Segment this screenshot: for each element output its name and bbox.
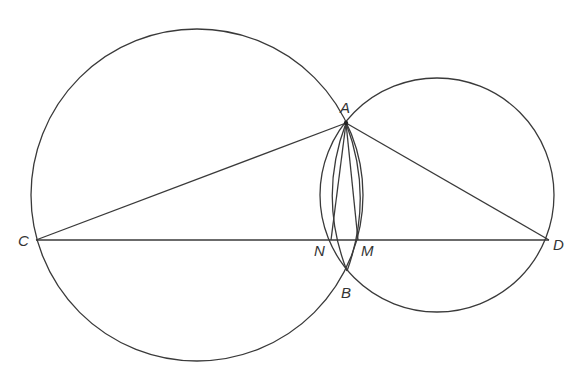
left-circle: [31, 29, 363, 361]
geometry-figure: A B C D N M: [0, 0, 576, 386]
label-M: M: [361, 242, 374, 259]
label-B: B: [341, 284, 351, 301]
arc-ANB: [332, 123, 347, 271]
label-N: N: [314, 242, 325, 259]
label-C: C: [18, 232, 29, 249]
segment-CA: [36, 123, 346, 240]
point-A-dot: [344, 121, 348, 125]
label-D: D: [553, 236, 564, 253]
segment-AD: [346, 123, 549, 240]
label-A: A: [339, 99, 350, 116]
right-circle: [320, 78, 554, 312]
